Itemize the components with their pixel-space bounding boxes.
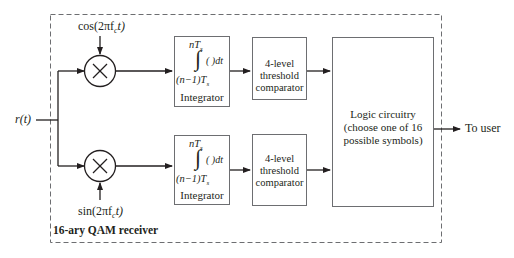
- comparator-bottom-line2: threshold: [253, 165, 306, 177]
- integrator-bottom-name: Integrator: [175, 189, 229, 201]
- receiver-title: 16-ary QAM receiver: [53, 224, 158, 236]
- integrand-bottom: ( )dt: [206, 154, 223, 166]
- logic-circuitry-box: Logic circuitry (choose one of 16 possib…: [332, 37, 434, 207]
- carrier-sin-tail: t): [116, 204, 123, 218]
- comparator-top-line3: comparator: [253, 82, 306, 94]
- carrier-cos-tail: t): [118, 19, 125, 33]
- logic-line3: possible symbols): [333, 134, 433, 147]
- integrand-top: ( )dt: [206, 55, 223, 67]
- carrier-sin-label: sin(2πfct): [78, 205, 123, 222]
- integrator-top-lower-limit: (n−1)Ts: [176, 74, 209, 90]
- integrator-box-top: nTs ∫ ( )dt (n−1)Ts Integrator: [174, 36, 230, 107]
- comparator-box-top: 4-level threshold comparator: [252, 37, 307, 100]
- integrator-top-name: Integrator: [175, 91, 229, 103]
- integral-symbol-top: ∫: [195, 47, 201, 71]
- multiplier-top: [85, 56, 116, 87]
- comparator-bottom-line3: comparator: [253, 177, 306, 189]
- qam-receiver-diagram: r(t) cos(2πfct) sin(2πfct) nTs ∫ ( )dt (…: [0, 0, 514, 258]
- integrator-box-bottom: nTs ∫ ( )dt (n−1)Ts Integrator: [174, 135, 230, 205]
- logic-line1: Logic circuitry: [333, 108, 433, 121]
- carrier-cos-label: cos(2πfct): [78, 20, 125, 37]
- integral-symbol-bottom: ∫: [195, 146, 201, 170]
- comparator-bottom-line1: 4-level: [253, 153, 306, 165]
- carrier-sin-text: sin(2πf: [78, 204, 112, 218]
- comparator-top-line2: threshold: [253, 70, 306, 82]
- integrator-bottom-lower-limit: (n−1)Ts: [176, 173, 209, 189]
- carrier-cos-text: cos(2πf: [78, 19, 114, 33]
- logic-line2: (choose one of 16: [333, 121, 433, 134]
- input-signal-label: r(t): [15, 113, 31, 126]
- comparator-box-bottom: 4-level threshold comparator: [252, 134, 307, 206]
- output-label: To user: [465, 122, 500, 135]
- multiplier-bottom: [85, 151, 116, 182]
- comparator-top-line1: 4-level: [253, 58, 306, 70]
